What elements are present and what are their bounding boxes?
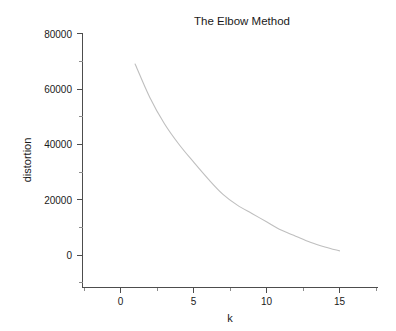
x-tick-label-0: 0 (118, 296, 124, 307)
y-tick-label-0: 0 (66, 250, 72, 261)
y-tick-label-20000: 20000 (44, 195, 72, 206)
y-tick-label-40000: 40000 (44, 139, 72, 150)
x-axis-title: k (227, 312, 233, 324)
plot-background (0, 0, 396, 331)
y-tick-label-60000: 60000 (44, 84, 72, 95)
x-tick-label-10: 10 (261, 296, 273, 307)
chart-title: The Elbow Method (194, 15, 290, 27)
x-tick-label-5: 5 (191, 296, 197, 307)
y-tick-label-80000: 80000 (44, 29, 72, 40)
elbow-method-plot: The Elbow Method 80000 60000 (0, 0, 396, 331)
chart-figure: The Elbow Method 80000 60000 (0, 0, 396, 331)
y-axis-title: distortion (21, 138, 33, 183)
x-tick-label-15: 15 (334, 296, 346, 307)
